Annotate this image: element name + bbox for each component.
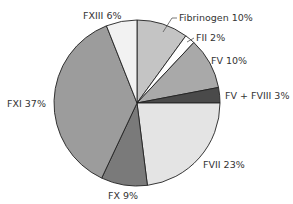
label-fx: FX 9% xyxy=(108,190,138,201)
label-fii: FII 2% xyxy=(196,32,225,43)
label-fv-fviii: FV + FVIII 3% xyxy=(225,90,289,101)
label-fxi: FXI 37% xyxy=(7,98,46,109)
pie-slice-fvii xyxy=(137,103,220,185)
label-fibrinogen: Fibrinogen 10% xyxy=(179,12,253,23)
pie-slices xyxy=(54,20,220,186)
label-fxiii: FXIII 6% xyxy=(83,10,121,21)
pie-chart: Fibrinogen 10% FII 2% FV 10% FV + FVIII … xyxy=(0,0,293,204)
label-fvii: FVII 23% xyxy=(203,159,245,170)
label-fv: FV 10% xyxy=(211,55,247,66)
